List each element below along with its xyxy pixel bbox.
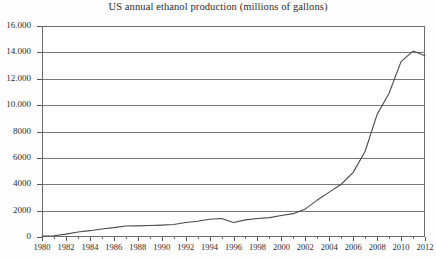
y-axis-tick-label: 0 bbox=[27, 231, 32, 241]
y-axis-tick-label: 10.000 bbox=[6, 99, 31, 109]
x-axis-major-tick bbox=[377, 237, 378, 241]
x-axis-tick-label: 1992 bbox=[177, 242, 194, 252]
x-axis-major-tick bbox=[210, 237, 211, 241]
x-axis-major-tick bbox=[281, 237, 282, 241]
x-axis-tick-label: 2006 bbox=[345, 242, 362, 252]
x-axis-minor-tick bbox=[78, 237, 79, 239]
x-axis-minor-tick bbox=[317, 237, 318, 239]
y-axis-tick-label: 6000 bbox=[13, 152, 31, 162]
x-axis-minor-tick bbox=[198, 237, 199, 239]
plot-area bbox=[42, 26, 425, 237]
x-axis-tick-label: 1982 bbox=[57, 242, 74, 252]
x-axis-major-tick bbox=[138, 237, 139, 241]
x-axis-tick-label: 2004 bbox=[321, 242, 338, 252]
x-axis-major-tick bbox=[66, 237, 67, 241]
x-axis-tick-label: 1984 bbox=[81, 242, 98, 252]
x-axis-major-tick bbox=[329, 237, 330, 241]
x-axis-minor-tick bbox=[174, 237, 175, 239]
x-axis-minor-tick bbox=[365, 237, 366, 239]
x-axis-minor-tick bbox=[413, 237, 414, 239]
chart-title: US annual ethanol production (millions o… bbox=[0, 1, 436, 12]
x-axis-minor-tick bbox=[341, 237, 342, 239]
y-axis-tick-label: 16.000 bbox=[6, 20, 31, 30]
x-axis-minor-tick bbox=[293, 237, 294, 239]
x-axis-major-tick bbox=[234, 237, 235, 241]
x-axis-major-tick bbox=[305, 237, 306, 241]
x-axis-major-tick bbox=[90, 237, 91, 241]
x-axis-minor-tick bbox=[54, 237, 55, 239]
x-axis-minor-tick bbox=[126, 237, 127, 239]
x-axis-minor-tick bbox=[102, 237, 103, 239]
x-axis-tick-label: 1988 bbox=[129, 242, 146, 252]
x-axis-major-tick bbox=[114, 237, 115, 241]
chart-figure: US annual ethanol production (millions o… bbox=[0, 0, 436, 260]
y-axis-tick-label: 4000 bbox=[13, 178, 31, 188]
x-axis-tick-label: 1994 bbox=[201, 242, 218, 252]
x-axis-tick-label: 2010 bbox=[393, 242, 410, 252]
x-axis-major-tick bbox=[425, 237, 426, 241]
x-axis-tick-label: 1996 bbox=[225, 242, 242, 252]
x-axis-minor-tick bbox=[389, 237, 390, 239]
x-axis-major-tick bbox=[401, 237, 402, 241]
x-axis-tick-label: 1990 bbox=[153, 242, 170, 252]
x-axis-tick-label: 2008 bbox=[369, 242, 386, 252]
y-axis-tick-label: 12.000 bbox=[6, 73, 31, 83]
x-axis-major-tick bbox=[257, 237, 258, 241]
x-axis-minor-tick bbox=[245, 237, 246, 239]
series-line-layer bbox=[42, 26, 425, 237]
x-axis-tick-label: 1986 bbox=[105, 242, 122, 252]
x-axis-major-tick bbox=[186, 237, 187, 241]
x-axis-tick-label: 2012 bbox=[417, 242, 434, 252]
series-line-us-annual-ethanol-production bbox=[42, 51, 425, 236]
x-axis-tick-label: 1998 bbox=[249, 242, 266, 252]
y-axis-tick-label: 14.000 bbox=[6, 46, 31, 56]
x-axis-major-tick bbox=[162, 237, 163, 241]
y-axis-tick-label: 2000 bbox=[13, 205, 31, 215]
x-axis-minor-tick bbox=[269, 237, 270, 239]
x-axis-tick-label: 1980 bbox=[34, 242, 51, 252]
y-axis: 16.00014.00012.00010.0008000600040002000… bbox=[0, 26, 42, 237]
y-axis-tick-label: 8000 bbox=[13, 126, 31, 136]
x-axis-minor-tick bbox=[222, 237, 223, 239]
x-axis-tick-label: 2002 bbox=[297, 242, 314, 252]
x-axis-tick-label: 2000 bbox=[273, 242, 290, 252]
x-axis: 1980198219841986198819901992199419961998… bbox=[42, 237, 425, 260]
x-axis-major-tick bbox=[353, 237, 354, 241]
x-axis-major-tick bbox=[42, 237, 43, 241]
x-axis-minor-tick bbox=[150, 237, 151, 239]
